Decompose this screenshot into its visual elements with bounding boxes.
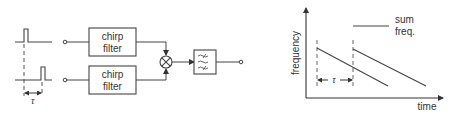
output-terminal — [239, 60, 243, 64]
lowpass-filter-icon — [194, 50, 216, 74]
multiplier-icon — [160, 56, 172, 68]
input-terminal-top — [63, 40, 67, 44]
chirp-filter-top: chirp filter — [89, 28, 136, 56]
x-axis-label: time — [418, 101, 437, 112]
svg-text:filter: filter — [103, 81, 123, 92]
input-pulse-bottom — [15, 67, 52, 80]
input-pulse-top — [15, 29, 52, 42]
delay-label-left: τ — [31, 96, 35, 106]
svg-text:chirp: chirp — [102, 31, 124, 42]
sum-freq-label-line2: freq. — [395, 26, 415, 37]
sum-freq-label-line1: sum — [395, 14, 414, 25]
diagram-canvas: τ chirp filter chirp filter frequency — [0, 0, 461, 115]
svg-text:chirp: chirp — [102, 69, 124, 80]
y-axis-label: frequency — [290, 31, 301, 75]
svg-text:filter: filter — [103, 43, 123, 54]
input-terminal-bottom — [63, 78, 67, 82]
chirp-filter-bottom: chirp filter — [89, 66, 136, 94]
frequency-time-graph: frequency time sum freq. τ — [290, 8, 443, 112]
chirp-line-2 — [353, 49, 426, 86]
